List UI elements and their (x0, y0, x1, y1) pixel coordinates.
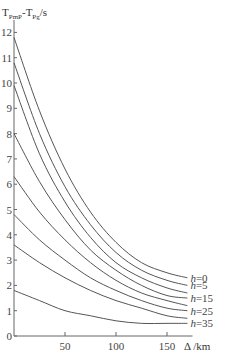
curves (14, 37, 187, 323)
x-tick-label: 50 (60, 340, 72, 352)
y-tick-label: 6 (7, 178, 13, 190)
y-axis-ticks: 0123456789101112 (1, 26, 17, 342)
y-tick-label: 8 (7, 128, 13, 140)
y-tick-label: 7 (7, 153, 13, 165)
y-tick-label: 3 (7, 254, 13, 266)
curve-label-h-35: h=35 (190, 317, 213, 329)
curve-labels: h=0h=5h=15h=25h=35 (190, 272, 213, 330)
x-axis-title-text: Δ /km (184, 340, 211, 352)
y-tick-label: 5 (7, 204, 13, 216)
curve-h-5 (14, 63, 187, 286)
y-tick-label: 11 (1, 52, 12, 64)
curve-h-15 (14, 134, 187, 298)
x-axis-ticks: 50100150 (60, 332, 176, 352)
curve-h-10 (14, 86, 187, 293)
y-tick-label: 1 (7, 305, 13, 317)
curve-label-h-25: h=25 (190, 305, 213, 317)
y-tick-label: 9 (7, 102, 13, 114)
x-tick-label: 100 (108, 340, 125, 352)
y-tick-label: 4 (7, 229, 13, 241)
y-tick-label: 0 (7, 330, 13, 342)
x-axis-title: Δ /km (184, 340, 211, 352)
y-axis-title-text: TPmP-TPg/s (2, 6, 47, 21)
y-tick-label: 2 (7, 279, 13, 291)
curve-label-h-15: h=15 (190, 292, 213, 304)
y-axis-title: TPmP-TPg/s (2, 6, 47, 21)
curve-h-0 (14, 37, 187, 277)
y-tick-label: 10 (1, 77, 13, 89)
axes (14, 20, 193, 336)
curve-label-h-5: h=5 (190, 279, 208, 291)
y-tick-label: 12 (1, 26, 12, 38)
line-chart: TPmP-TPg/s 0123456789101112 50100150 h=0… (0, 0, 229, 361)
x-tick-label: 150 (159, 340, 176, 352)
